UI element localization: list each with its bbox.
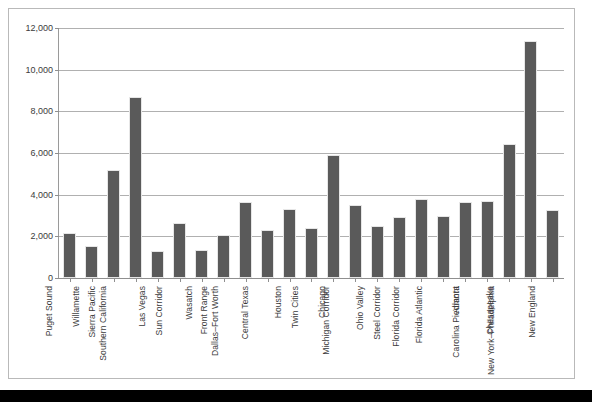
x-label-slot: New England xyxy=(542,282,564,378)
bar[interactable] xyxy=(261,230,274,278)
bar-slot xyxy=(454,28,476,278)
bar-slot xyxy=(191,28,213,278)
bar[interactable] xyxy=(415,199,428,279)
x-axis-category-label: Florida Atlantic xyxy=(414,286,424,343)
bar-slot xyxy=(81,28,103,278)
bar-slot xyxy=(520,28,542,278)
bar[interactable] xyxy=(239,202,252,278)
bar[interactable] xyxy=(151,251,164,278)
x-axis-category-label: New York–Philadelphia xyxy=(486,286,496,375)
bar[interactable] xyxy=(129,97,142,278)
x-axis-category-label: Southern California xyxy=(98,286,108,361)
x-axis-category-label: Central Texas xyxy=(240,286,250,339)
x-axis-category-label: Front Range xyxy=(199,286,209,334)
x-axis-category-label: Willamette xyxy=(71,286,81,327)
bars-group xyxy=(59,28,564,278)
bar[interactable] xyxy=(459,202,472,278)
bar-slot xyxy=(125,28,147,278)
y-axis-tick-label: 4,000 xyxy=(30,190,53,200)
bar[interactable] xyxy=(503,144,516,278)
bar[interactable] xyxy=(305,228,318,278)
bar[interactable] xyxy=(524,41,537,278)
bar[interactable] xyxy=(217,235,230,278)
plot-area: 02,0004,0006,0008,00010,00012,000 xyxy=(58,28,564,278)
bar-slot xyxy=(279,28,301,278)
bar[interactable] xyxy=(481,201,494,278)
x-label-slot: Chesapeake xyxy=(498,282,520,378)
bar-slot xyxy=(169,28,191,278)
x-axis-category-label: Puget Sound xyxy=(44,286,54,336)
x-axis-category-label: Dallas–Fort Worth xyxy=(210,286,220,356)
bar[interactable] xyxy=(195,250,208,278)
bar[interactable] xyxy=(63,233,76,278)
bar-slot xyxy=(147,28,169,278)
bar[interactable] xyxy=(283,209,296,279)
x-axis-category-label: Florida Corridor xyxy=(391,286,401,347)
x-axis-category-label: Steel Corridor xyxy=(372,286,382,340)
y-axis-tick-label: 6,000 xyxy=(30,148,53,158)
bar-slot xyxy=(432,28,454,278)
bar-slot xyxy=(103,28,125,278)
bar[interactable] xyxy=(107,170,120,278)
plot-canvas: 02,0004,0006,0008,00010,00012,000 xyxy=(58,28,564,278)
bar-slot xyxy=(366,28,388,278)
x-axis-category-label: Ohio Valley xyxy=(355,286,365,330)
bar[interactable] xyxy=(349,205,362,278)
bar-slot xyxy=(542,28,564,278)
x-axis-category-label: Michigan Corridor xyxy=(321,286,331,355)
x-axis-category-label: Houston xyxy=(273,286,283,318)
bar-slot xyxy=(498,28,520,278)
bar-slot xyxy=(410,28,432,278)
bar-slot xyxy=(235,28,257,278)
y-axis-tick-label: 10,000 xyxy=(25,65,53,75)
x-axis-labels: Puget SoundWillametteSierra PacificSouth… xyxy=(58,282,564,378)
y-axis-tick-label: 0 xyxy=(48,273,53,283)
bar[interactable] xyxy=(437,216,450,278)
bar-slot xyxy=(476,28,498,278)
bar-slot xyxy=(388,28,410,278)
y-axis-tick-mark xyxy=(55,278,59,279)
bar[interactable] xyxy=(371,226,384,278)
bar-slot xyxy=(213,28,235,278)
y-axis-tick-label: 2,000 xyxy=(30,231,53,241)
bar[interactable] xyxy=(85,246,98,278)
bottom-black-strip xyxy=(0,390,592,402)
x-axis-category-label: Las Vegas xyxy=(137,286,147,327)
y-axis-tick-label: 8,000 xyxy=(30,106,53,116)
bar-slot xyxy=(300,28,322,278)
bar-slot xyxy=(344,28,366,278)
chart-figure-frame: 02,0004,0006,0008,00010,00012,000 Puget … xyxy=(8,8,575,379)
bar-slot xyxy=(257,28,279,278)
x-axis-category-label: Sun Corridor xyxy=(154,286,164,335)
bar[interactable] xyxy=(393,217,406,278)
x-axis-category-label: Carolina Piedmont xyxy=(451,286,461,358)
bar-slot xyxy=(322,28,344,278)
bar-slot xyxy=(59,28,81,278)
bar[interactable] xyxy=(546,210,559,278)
x-axis-category-label: Sierra Pacific xyxy=(87,286,97,337)
x-axis-category-label: Wasatch xyxy=(184,286,194,319)
x-axis-category-label: New England xyxy=(527,286,537,338)
y-axis-tick-label: 12,000 xyxy=(25,23,53,33)
bar[interactable] xyxy=(173,223,186,278)
bar[interactable] xyxy=(327,155,340,278)
x-axis-category-label: Twin Cities xyxy=(290,286,300,328)
